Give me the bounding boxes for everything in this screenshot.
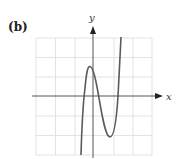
x-axis: x bbox=[32, 91, 172, 102]
y-axis: y bbox=[88, 12, 96, 158]
x-axis-arrow-icon bbox=[155, 93, 163, 99]
cubic-graph: x y bbox=[0, 0, 182, 159]
y-axis-label: y bbox=[88, 12, 95, 23]
y-axis-arrow-icon bbox=[90, 26, 96, 34]
x-axis-label: x bbox=[166, 91, 172, 102]
